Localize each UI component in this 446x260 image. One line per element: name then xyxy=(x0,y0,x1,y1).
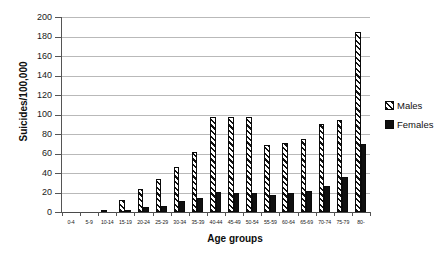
y-tick-60 xyxy=(55,154,61,155)
legend-item-males: Males xyxy=(385,100,433,111)
x-tick-70-74 xyxy=(316,212,317,216)
bar-group-60-64 xyxy=(279,17,297,212)
x-axis-title: Age groups xyxy=(155,233,315,244)
y-tick-180 xyxy=(55,37,61,38)
bar-females-45-49 xyxy=(234,193,240,212)
y-tick-140 xyxy=(55,76,61,77)
bar-group-25-29 xyxy=(153,17,171,212)
bar-females-25-29 xyxy=(161,206,167,212)
x-tick-10-14 xyxy=(98,212,99,216)
x-tick-label-0-4: 0-4 xyxy=(62,219,80,225)
bar-females-55-59 xyxy=(270,195,276,212)
plot-area xyxy=(62,17,370,212)
bar-males-10-14 xyxy=(101,210,107,212)
bar-females-35-39 xyxy=(197,198,203,212)
y-tick-label-80: 80 xyxy=(4,130,52,139)
y-tick-40 xyxy=(55,173,61,174)
bar-females-60-64 xyxy=(288,193,294,212)
bar-group-40-44 xyxy=(207,17,225,212)
x-tick-5-9 xyxy=(80,212,81,216)
bar-group-15-19 xyxy=(116,17,134,212)
legend-label-females: Females xyxy=(397,119,433,130)
x-tick-label-70-74: 70-74 xyxy=(316,219,334,225)
bar-group-5-9 xyxy=(80,17,98,212)
bar-group-20-24 xyxy=(134,17,152,212)
y-tick-100 xyxy=(55,115,61,116)
x-tick-45-49 xyxy=(225,212,226,216)
x-tick-label-5-9: 5-9 xyxy=(80,219,98,225)
x-tick-label-75-79: 75-79 xyxy=(334,219,352,225)
y-tick-120 xyxy=(55,95,61,96)
x-tick-label-65-69: 65-69 xyxy=(298,219,316,225)
bar-group-30-34 xyxy=(171,17,189,212)
bar-group-10-14 xyxy=(98,17,116,212)
x-tick-25-29 xyxy=(153,212,154,216)
y-tick-label-100: 100 xyxy=(4,110,52,119)
suicide-rate-bar-chart: Suicides/100,000 02040608010012014016018… xyxy=(0,0,446,260)
bar-females-70-74 xyxy=(324,186,330,212)
bar-group-70-74 xyxy=(316,17,334,212)
y-tick-label-140: 140 xyxy=(4,71,52,80)
y-tick-80 xyxy=(55,134,61,135)
x-tick-30-34 xyxy=(171,212,172,216)
y-tick-20 xyxy=(55,193,61,194)
bar-females-75-79 xyxy=(342,177,348,212)
y-tick-label-40: 40 xyxy=(4,169,52,178)
x-tick-75-79 xyxy=(334,212,335,216)
bar-females-30-34 xyxy=(179,201,185,212)
bar-group-55-59 xyxy=(261,17,279,212)
y-tick-label-120: 120 xyxy=(4,91,52,100)
bar-females-15-19 xyxy=(125,210,131,212)
bar-group-65-69 xyxy=(298,17,316,212)
y-tick-200 xyxy=(55,17,61,18)
bar-group-75-79 xyxy=(334,17,352,212)
y-tick-label-160: 160 xyxy=(4,52,52,61)
solid-black-swatch-icon xyxy=(385,120,394,129)
x-tick-0-4 xyxy=(62,212,63,216)
bar-females-80- xyxy=(361,144,367,212)
x-tick-20-24 xyxy=(134,212,135,216)
x-tick-label-45-49: 45-49 xyxy=(225,219,243,225)
chart-legend: Males Females xyxy=(385,100,433,138)
x-tick-40-44 xyxy=(207,212,208,216)
x-tick-55-59 xyxy=(261,212,262,216)
legend-label-males: Males xyxy=(397,100,422,111)
legend-item-females: Females xyxy=(385,119,433,130)
bar-females-50-54 xyxy=(252,193,258,213)
y-tick-0 xyxy=(55,212,61,213)
x-tick-label-15-19: 15-19 xyxy=(116,219,134,225)
bar-group-0-4 xyxy=(62,17,80,212)
y-tick-160 xyxy=(55,56,61,57)
x-tick-label-10-14: 10-14 xyxy=(98,219,116,225)
x-tick-35-39 xyxy=(189,212,190,216)
bar-group-35-39 xyxy=(189,17,207,212)
bar-females-40-44 xyxy=(216,192,222,212)
x-tick-65-69 xyxy=(298,212,299,216)
x-tick-label-80-: 80- xyxy=(352,219,370,225)
y-tick-label-20: 20 xyxy=(4,188,52,197)
bar-group-50-54 xyxy=(243,17,261,212)
x-tick-label-30-34: 30-34 xyxy=(171,219,189,225)
x-tick-label-50-54: 50-54 xyxy=(243,219,261,225)
x-tick-label-35-39: 35-39 xyxy=(189,219,207,225)
x-tick-label-60-64: 60-64 xyxy=(279,219,297,225)
x-tick-end xyxy=(370,212,371,216)
x-tick-50-54 xyxy=(243,212,244,216)
x-tick-label-25-29: 25-29 xyxy=(153,219,171,225)
y-tick-label-180: 180 xyxy=(4,32,52,41)
y-tick-label-60: 60 xyxy=(4,149,52,158)
bar-group-80- xyxy=(352,17,370,212)
x-tick-label-40-44: 40-44 xyxy=(207,219,225,225)
bar-females-65-69 xyxy=(306,191,312,212)
hatched-swatch-icon xyxy=(385,101,394,110)
x-tick-80- xyxy=(352,212,353,216)
y-tick-label-0: 0 xyxy=(4,208,52,217)
x-tick-label-20-24: 20-24 xyxy=(134,219,152,225)
bar-females-20-24 xyxy=(143,207,149,212)
x-tick-15-19 xyxy=(116,212,117,216)
gridline-0 xyxy=(62,212,370,213)
bar-group-45-49 xyxy=(225,17,243,212)
x-tick-60-64 xyxy=(279,212,280,216)
y-tick-label-200: 200 xyxy=(4,13,52,22)
x-tick-label-55-59: 55-59 xyxy=(261,219,279,225)
